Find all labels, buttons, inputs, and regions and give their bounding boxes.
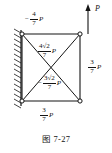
member-label-bottom-fraction: 3 7 <box>40 107 48 123</box>
member-label-bottom-chord: 3 7 P <box>40 107 53 123</box>
member-label-top-numerator: 4 <box>31 11 37 19</box>
joint-bottom-right <box>78 99 82 103</box>
member-label-diag-upper-numerator: 4√2 <box>38 43 51 51</box>
member-label-right-unit: P <box>97 64 102 71</box>
member-label-right-fraction: 3 7 <box>88 59 96 75</box>
member-label-diag-upper-fraction: 4√2 7 <box>38 43 51 59</box>
figure-caption: 图 7-27 <box>0 132 112 144</box>
member-label-diag-lower-fraction: 3√2 7 <box>43 75 56 91</box>
member-label-bottom-numerator: 3 <box>41 107 47 115</box>
member-label-diag-lower-denominator: 7 <box>47 84 53 92</box>
member-label-diagonal-upper: 4√2 7 P <box>38 43 56 59</box>
joint-top-right <box>78 32 82 36</box>
member-label-bottom-denominator: 7 <box>41 116 47 124</box>
radical-icon: √2 <box>47 75 54 82</box>
member-label-diag-lower-sign: − <box>38 80 42 87</box>
member-label-top-fraction: 4 7 <box>30 11 38 27</box>
member-label-top-chord: − 4 7 P <box>25 11 43 27</box>
member-label-right-numerator: 3 <box>89 59 95 67</box>
radical-icon: √2 <box>43 43 50 50</box>
member-label-diag-upper-denominator: 7 <box>42 52 48 60</box>
member-label-top-denominator: 7 <box>31 20 37 28</box>
truss-figure: − 4 7 P 3 7 P 3 7 P <box>0 0 112 153</box>
member-label-diag-upper-unit: P <box>51 48 56 55</box>
member-label-top-sign: − <box>25 16 29 23</box>
member-label-bottom-unit: P <box>49 112 54 119</box>
wall-hatching <box>14 29 21 108</box>
joint-top-left <box>20 32 24 36</box>
member-label-right-denominator: 7 <box>89 68 95 76</box>
member-label-right-chord: 3 7 P <box>88 59 101 75</box>
load-arrow-head <box>85 4 90 11</box>
member-label-diag-lower-unit: P <box>56 80 61 87</box>
member-label-top-unit: P <box>38 16 43 23</box>
member-label-diag-lower-numerator: 3√2 <box>43 75 56 83</box>
load-label-p: P <box>95 5 100 13</box>
member-label-diagonal-lower: − 3√2 7 P <box>38 75 61 91</box>
joint-bottom-left <box>20 99 24 103</box>
